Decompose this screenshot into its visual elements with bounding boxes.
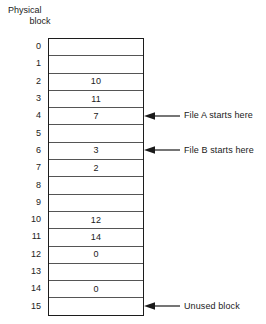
row-index-label: 14 — [22, 280, 44, 297]
row-index-label: 6 — [22, 142, 44, 159]
annotation-label: File B starts here — [180, 146, 254, 155]
row-index-label: 11 — [22, 228, 44, 245]
table-row — [49, 125, 143, 142]
table-row: 3 — [49, 143, 143, 160]
block-value: 7 — [93, 112, 98, 121]
row-index-label: 1 — [22, 55, 44, 72]
row-index-label: 5 — [22, 124, 44, 141]
column-header-line-2: block — [8, 16, 72, 27]
annotation: Unused block — [144, 300, 240, 312]
row-index-label: 0 — [22, 38, 44, 55]
block-value: 3 — [93, 146, 98, 155]
row-index-label: 8 — [22, 176, 44, 193]
block-value: 10 — [91, 77, 101, 86]
block-value: 0 — [93, 285, 98, 294]
left-arrow-icon — [144, 111, 180, 121]
table-row: 7 — [49, 108, 143, 125]
table-row — [49, 39, 143, 56]
block-value: 14 — [91, 233, 101, 242]
block-value: 11 — [91, 95, 101, 104]
block-value: 2 — [93, 164, 98, 173]
annotation: File B starts here — [144, 144, 254, 156]
row-index-label: 9 — [22, 194, 44, 211]
row-index-label: 7 — [22, 159, 44, 176]
table-row — [49, 298, 143, 315]
table-row: 10 — [49, 74, 143, 91]
table-row: 2 — [49, 160, 143, 177]
left-arrow-icon — [144, 301, 180, 311]
table-row — [49, 264, 143, 281]
table-row — [49, 195, 143, 212]
table-row — [49, 177, 143, 194]
physical-block-table: 1011732121400 — [48, 38, 144, 316]
annotation-label: File A starts here — [180, 111, 253, 120]
table-row: 0 — [49, 281, 143, 298]
table-row: 14 — [49, 229, 143, 246]
table-row: 11 — [49, 91, 143, 108]
row-index-label: 15 — [22, 297, 44, 314]
block-value: 12 — [91, 216, 101, 225]
column-header: Physical block — [8, 5, 72, 27]
column-header-line-1: Physical — [8, 5, 72, 16]
row-index-label: 4 — [22, 107, 44, 124]
row-index-label: 2 — [22, 73, 44, 90]
table-row: 12 — [49, 212, 143, 229]
annotation: File A starts here — [144, 110, 253, 122]
row-index-label: 12 — [22, 246, 44, 263]
table-row: 0 — [49, 247, 143, 264]
table-row — [49, 56, 143, 73]
row-index-label: 3 — [22, 90, 44, 107]
annotation-label: Unused block — [180, 302, 240, 311]
left-arrow-icon — [144, 145, 180, 155]
row-index-label: 13 — [22, 263, 44, 280]
row-index-column: 0123456789101112131415 — [22, 38, 44, 316]
block-value: 0 — [93, 250, 98, 259]
row-index-label: 10 — [22, 211, 44, 228]
